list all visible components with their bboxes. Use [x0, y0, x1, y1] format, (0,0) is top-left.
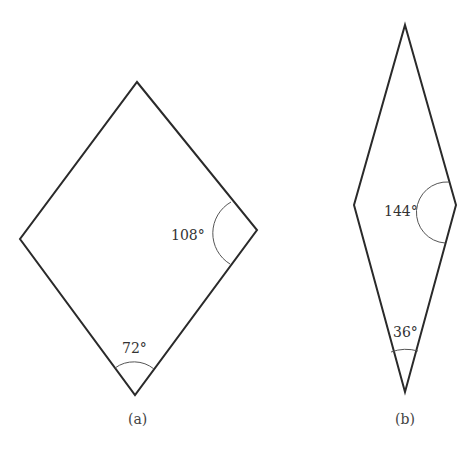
angle-arc-b-bottom: [391, 349, 418, 352]
caption-b: (b): [395, 411, 415, 427]
caption-a: (a): [128, 411, 147, 427]
angle-arc-b-right: [416, 182, 449, 243]
angle-label-a-right: 108°: [171, 227, 205, 243]
rhombus-diagram: 108° 72° (a) 144° 36° (b): [0, 0, 475, 450]
angle-label-b-bottom: 36°: [393, 324, 418, 340]
figure-a: 108° 72° (a): [20, 82, 257, 427]
angle-label-a-bottom: 72°: [122, 340, 147, 356]
angle-arc-a-bottom: [115, 362, 154, 369]
angle-arc-a-right: [213, 202, 231, 264]
figure-b: 144° 36° (b): [354, 25, 456, 427]
angle-label-b-right: 144°: [384, 203, 418, 219]
